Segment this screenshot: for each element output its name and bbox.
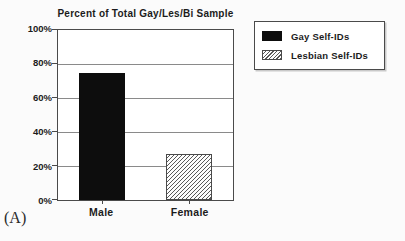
y-tick-label: 80%	[14, 57, 52, 69]
legend-item-gay: Gay Self-IDs	[262, 31, 384, 42]
bar-male-gay-self-ids	[79, 73, 125, 201]
y-axis-labels: 100% 80% 60% 40% 20% 0%	[14, 29, 52, 201]
y-axis-tick	[52, 97, 57, 98]
x-axis-tick-male	[102, 200, 103, 204]
plot-area	[57, 29, 234, 201]
x-tick-label-female: Female	[150, 206, 230, 218]
figure-panel-label: (A)	[4, 209, 26, 227]
chart-title: Percent of Total Gay/Les/Bi Sample	[47, 8, 244, 19]
x-axis-tick-female	[189, 200, 190, 204]
y-axis-tick	[52, 29, 57, 30]
legend-swatch-solid-black-icon	[262, 31, 282, 41]
bar-female-lesbian-self-ids	[166, 154, 212, 200]
y-axis-tick	[52, 131, 57, 132]
y-axis-tick	[52, 199, 57, 200]
legend-label-gay: Gay Self-IDs	[291, 31, 349, 42]
y-axis-tick	[52, 165, 57, 166]
bar-chart-figure: Percent of Total Gay/Les/Bi Sample 100% …	[0, 0, 405, 241]
x-axis-labels: Male Female	[57, 206, 234, 220]
y-tick-label: 20%	[14, 161, 52, 173]
legend-item-lesbian: Lesbian Self-IDs	[262, 50, 384, 61]
y-tick-label: 40%	[14, 126, 52, 138]
y-tick-label: 60%	[14, 92, 52, 104]
legend-swatch-diagonal-hatch-icon	[262, 50, 282, 60]
y-axis-tick	[52, 63, 57, 64]
x-tick-label-male: Male	[61, 206, 141, 218]
legend-label-lesbian: Lesbian Self-IDs	[291, 50, 368, 61]
y-tick-label: 100%	[14, 23, 52, 35]
legend: Gay Self-IDs Lesbian Self-IDs	[254, 21, 385, 70]
gridline-80	[58, 64, 233, 65]
y-tick-label: 0%	[14, 195, 52, 207]
